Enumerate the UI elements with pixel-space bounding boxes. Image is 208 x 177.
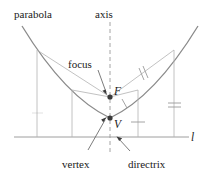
vertex-point-label: V [114,118,123,130]
directrix-label: directrix [128,158,166,170]
focus-point-label: F [113,85,122,97]
focus-point-marker [107,94,112,99]
vertex-label: vertex [62,158,90,170]
vertex-point-marker [107,115,112,120]
parabola-label: parabola [14,8,52,20]
directrix-leader-line [119,139,130,151]
figure-canvas: parabola axis focus F V vertex directrix… [0,0,208,177]
focus-leader-line [98,70,106,92]
directrix-line-label: l [191,131,194,143]
axis-label: axis [95,8,113,20]
parabola-figure: parabola axis focus F V vertex directrix… [0,0,208,177]
single-tick-focal-radius-right-inner [122,99,127,108]
focus-label: focus [68,58,92,70]
vertex-leader-line [88,120,105,150]
double-tick-focal-radius-right-outer-a [139,68,144,80]
